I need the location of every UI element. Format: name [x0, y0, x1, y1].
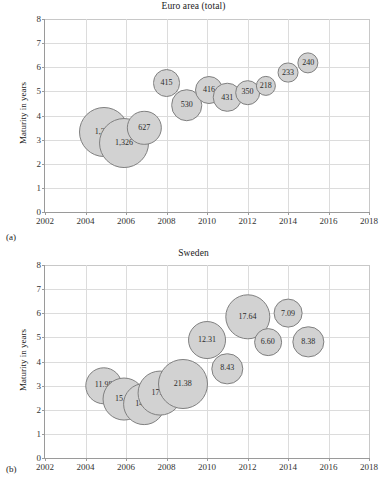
x-tick-label: 2014: [279, 216, 297, 226]
x-tick-label: 2006: [117, 216, 135, 226]
x-tick-mark: [329, 212, 330, 215]
x-tick-label: 2010: [198, 462, 216, 472]
x-tick-mark: [167, 212, 168, 215]
gridline-vertical: [126, 19, 127, 212]
y-tick-label: 1: [37, 183, 42, 193]
bubble-value-label: 627: [138, 124, 150, 132]
panel-a-plot-area: 0123456782002200420062008201020122014201…: [44, 19, 369, 213]
gridline-vertical: [369, 265, 370, 458]
y-tick-mark: [42, 67, 45, 68]
y-tick-mark: [42, 164, 45, 165]
panel-a-title: Euro area (total): [0, 1, 387, 11]
gridline-vertical: [329, 265, 330, 458]
y-tick-label: 4: [37, 357, 42, 367]
bubble-data-point: 240: [298, 52, 319, 73]
panel-b-y-axis-label: Maturity in years: [18, 315, 28, 405]
gridline-vertical: [167, 265, 168, 458]
bubble-value-label: 530: [181, 101, 193, 109]
y-tick-mark: [42, 386, 45, 387]
y-tick-label: 7: [37, 284, 42, 294]
x-tick-label: 2002: [36, 216, 54, 226]
panel-euro-area: Euro area (total) Maturity in years 0123…: [0, 0, 387, 245]
x-tick-label: 2004: [77, 462, 95, 472]
gridline-vertical: [329, 19, 330, 212]
gridline-vertical: [207, 265, 208, 458]
y-tick-label: 6: [37, 62, 42, 72]
bubble-data-point: 218: [256, 76, 276, 96]
y-tick-label: 8: [37, 14, 42, 24]
y-tick-label: 3: [37, 381, 42, 391]
panel-a-y-axis-label: Maturity in years: [18, 68, 28, 158]
x-tick-mark: [207, 212, 208, 215]
x-tick-label: 2012: [239, 462, 257, 472]
y-tick-mark: [42, 410, 45, 411]
y-tick-mark: [42, 188, 45, 189]
x-tick-mark: [45, 458, 46, 461]
y-tick-mark: [42, 140, 45, 141]
x-tick-mark: [45, 212, 46, 215]
x-tick-mark: [369, 458, 370, 461]
x-tick-label: 2018: [360, 462, 378, 472]
x-tick-label: 2008: [158, 462, 176, 472]
bubble-data-point: 8.38: [293, 327, 324, 358]
gridline-vertical: [288, 265, 289, 458]
bubble-data-point: 7.09: [274, 299, 303, 328]
x-tick-mark: [248, 458, 249, 461]
y-tick-label: 2: [37, 405, 42, 415]
gridline-vertical: [207, 19, 208, 212]
bubble-value-label: 350: [241, 89, 253, 97]
x-tick-mark: [329, 458, 330, 461]
x-tick-label: 2016: [320, 462, 338, 472]
x-tick-label: 2016: [320, 216, 338, 226]
panel-b-title: Sweden: [0, 248, 387, 258]
bubble-value-label: 8.43: [220, 365, 234, 373]
y-tick-mark: [42, 116, 45, 117]
y-tick-label: 7: [37, 38, 42, 48]
x-tick-mark: [207, 458, 208, 461]
y-tick-label: 4: [37, 111, 42, 121]
bubble-value-label: 7.09: [281, 309, 295, 317]
y-tick-mark: [42, 43, 45, 44]
x-tick-label: 2014: [279, 462, 297, 472]
gridline-vertical: [288, 19, 289, 212]
x-tick-label: 2008: [158, 216, 176, 226]
y-tick-mark: [42, 289, 45, 290]
bubble-value-label: 12.31: [198, 336, 216, 344]
gridline-vertical: [126, 265, 127, 458]
x-tick-mark: [288, 212, 289, 215]
bubble-value-label: 240: [302, 59, 314, 67]
panel-a-label: (a): [6, 232, 16, 242]
bubble-data-point: 6.60: [254, 328, 282, 356]
y-tick-label: 1: [37, 429, 42, 439]
x-tick-label: 2012: [239, 216, 257, 226]
y-tick-mark: [42, 91, 45, 92]
bubble-data-point: 12.31: [188, 321, 226, 359]
y-tick-label: 5: [37, 86, 42, 96]
x-tick-label: 2002: [36, 462, 54, 472]
x-tick-mark: [167, 458, 168, 461]
x-tick-mark: [86, 458, 87, 461]
bubble-value-label: 415: [160, 79, 172, 87]
y-tick-label: 3: [37, 135, 42, 145]
panel-b-label: (b): [6, 464, 17, 474]
bubble-value-label: 233: [282, 69, 294, 77]
x-tick-mark: [369, 212, 370, 215]
y-tick-mark: [42, 337, 45, 338]
bubble-value-label: 21.38: [174, 380, 192, 388]
y-tick-mark: [42, 362, 45, 363]
x-tick-label: 2010: [198, 216, 216, 226]
y-tick-mark: [42, 19, 45, 20]
y-tick-mark: [42, 313, 45, 314]
gridline-vertical: [86, 265, 87, 458]
x-tick-label: 2006: [117, 462, 135, 472]
gridline-vertical: [167, 19, 168, 212]
y-tick-label: 5: [37, 332, 42, 342]
y-tick-label: 2: [37, 159, 42, 169]
x-tick-label: 2018: [360, 216, 378, 226]
x-tick-mark: [126, 458, 127, 461]
bubble-data-point: 21.38: [158, 359, 208, 409]
bubble-chart-figure: Euro area (total) Maturity in years 0123…: [0, 0, 387, 490]
y-tick-mark: [42, 434, 45, 435]
y-tick-label: 8: [37, 260, 42, 270]
gridline-vertical: [369, 19, 370, 212]
